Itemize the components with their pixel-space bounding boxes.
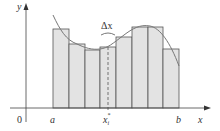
- rectangle-6: [132, 27, 148, 108]
- a-label: a: [50, 114, 55, 125]
- y-axis-arrow-icon: [24, 3, 29, 10]
- rectangle-2: [69, 44, 85, 108]
- x-axis-arrow-icon: [204, 106, 211, 111]
- rectangle-3: [85, 50, 100, 108]
- rectangles: [53, 27, 179, 108]
- b-label: b: [176, 114, 181, 125]
- delta-x-brace-icon: [101, 33, 115, 35]
- delta-x-label: Δx: [101, 20, 112, 31]
- riemann-sum-diagram: y x 0 a b xi* Δx: [0, 0, 220, 131]
- rectangle-1: [53, 29, 69, 108]
- rectangle-5: [116, 37, 132, 108]
- sample-point-superscript: *: [107, 112, 110, 118]
- sample-point-subscript: i: [107, 120, 109, 126]
- origin-label: 0: [17, 114, 22, 125]
- rectangle-7: [148, 27, 163, 108]
- y-axis-label: y: [16, 1, 22, 12]
- sample-point-label: xi*: [102, 112, 110, 126]
- rectangle-8: [163, 49, 179, 108]
- x-axis-label: x: [197, 114, 203, 125]
